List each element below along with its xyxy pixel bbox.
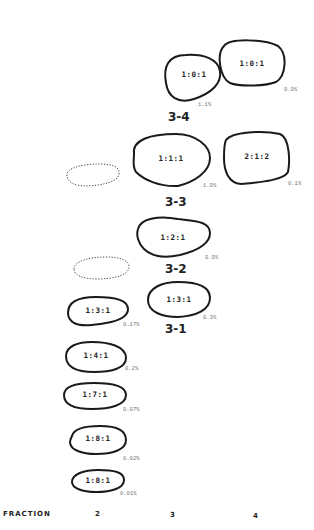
spot-1-8-1-fraction-2-upper: 1:8:1 [68,424,128,456]
spot-1-0-1-fraction-4: 1:0:1 [216,40,288,88]
spot-1-4-1-fraction-2: 1:4:1 [64,340,128,374]
axis-label: FRACTION [3,510,51,518]
spot-percent: 0.17% [123,321,140,328]
dotted-spot-lower [72,255,130,281]
spot-percent: 0.01% [120,490,137,497]
spot-ratio-label: 1:2:1 [134,233,212,242]
spot-1-1-1-fraction-3: 1:1:1 [130,132,212,188]
spot-percent: 1.1% [198,101,211,108]
spot-1-2-1-fraction-3: 1:2:1 [134,215,212,259]
spot-ratio-label: 1:8:1 [68,434,128,443]
spot-percent: 0.3% [203,314,216,321]
spot-percent: 0.07% [123,406,140,413]
spot-percent: 0.02% [123,455,140,462]
group-label: 3-4 [168,110,190,124]
axis-tick-4: 4 [253,512,259,520]
spot-1-8-1-fraction-2-lower: 1:8:1 [70,468,126,494]
spot-percent: 0.9% [284,86,297,93]
spot-ratio-label: 1:8:1 [70,476,126,485]
spot-percent: 1.9% [203,182,216,189]
axis-tick-3: 3 [170,511,176,519]
axis-tick-2: 2 [95,510,101,518]
spot-ratio-label: 1:4:1 [64,351,128,360]
spot-ratio-label: 1:3:1 [146,295,212,304]
group-label: 3-1 [165,322,187,336]
spot-percent: 0.1% [288,180,301,187]
spot-ratio-label: 1:0:1 [216,59,288,68]
spot-ratio-label: 1:3:1 [66,306,130,315]
spot-ratio-label: 1:7:1 [62,390,128,399]
dotted-spot-upper [63,162,121,188]
spot-1-3-1-fraction-2: 1:3:1 [66,295,130,327]
spot-percent: 0.2% [125,365,138,372]
spot-ratio-label: 2:1:2 [222,152,292,161]
spot-percent: 0.9% [205,254,218,261]
spot-ratio-label: 1:1:1 [130,154,212,163]
spot-1-7-1-fraction-2: 1:7:1 [62,381,128,411]
spot-2-1-2-fraction-4: 2:1:2 [222,130,292,186]
group-label: 3-2 [165,262,187,276]
spot-ratio-label: 1:0:1 [164,70,224,79]
spot-1-0-1-fraction-3: 1:0:1 [164,53,224,105]
group-label: 3-3 [165,195,187,209]
